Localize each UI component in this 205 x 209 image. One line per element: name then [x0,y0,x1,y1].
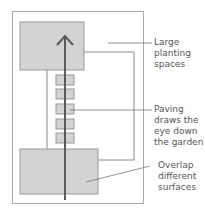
label-large-planting: Large planting spaces [154,37,191,70]
label-paving: Paving draws the eye down the garden [154,104,203,148]
label-line: surfaces [158,182,196,193]
label-line: draws the [154,115,203,126]
label-line: Large [154,37,191,48]
label-line: eye down [154,126,203,137]
label-line: Overlap [158,160,196,171]
label-line: different [158,171,196,182]
label-line: planting [154,48,191,59]
label-overlap: Overlap different surfaces [158,160,196,193]
label-line: spaces [154,59,191,70]
label-line: the garden [154,137,203,148]
top-planting-area [20,22,84,70]
label-line: Paving [154,104,203,115]
bottom-planting-area [20,149,98,194]
